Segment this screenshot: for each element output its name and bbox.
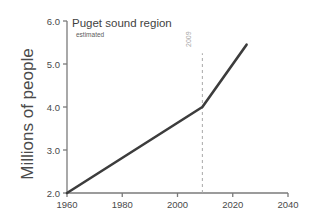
svg-text:2020: 2020 xyxy=(222,199,243,210)
svg-text:1980: 1980 xyxy=(112,199,133,210)
plot-area: 2.03.04.05.06.019601980200020202040 xyxy=(0,0,310,224)
svg-text:1960: 1960 xyxy=(56,199,77,210)
svg-text:4.0: 4.0 xyxy=(47,102,60,113)
svg-text:2.0: 2.0 xyxy=(47,188,60,199)
svg-text:5.0: 5.0 xyxy=(47,59,60,70)
svg-text:2040: 2040 xyxy=(277,199,298,210)
svg-text:6.0: 6.0 xyxy=(47,16,60,27)
data-series xyxy=(67,45,247,193)
svg-text:3.0: 3.0 xyxy=(47,145,60,156)
svg-text:2000: 2000 xyxy=(167,199,188,210)
chart-container: Millions of people Puget sound region es… xyxy=(0,0,310,224)
axes xyxy=(67,21,288,193)
axis-ticks xyxy=(63,21,288,197)
